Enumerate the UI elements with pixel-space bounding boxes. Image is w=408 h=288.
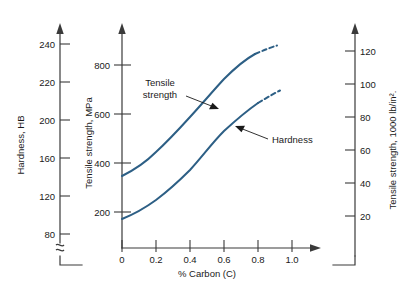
axis-break-icon — [56, 249, 64, 251]
main-ticklabel-400: 400 — [94, 158, 110, 169]
right-ticklabel-60: 60 — [360, 145, 371, 156]
right-axis-tensile-ksi: 120 100 80 60 40 20 Tensile strength, 10… — [333, 23, 398, 265]
main-ticklabel-600: 600 — [94, 109, 110, 120]
hardness-curve — [122, 103, 258, 219]
right-ticklabel-120: 120 — [360, 46, 376, 57]
left-axis-arrowhead — [56, 23, 63, 34]
left-ticklabel-3: 160 — [39, 153, 55, 164]
chart-svg: 240 220 200 160 120 80 Hardness, HB 800 … — [0, 0, 408, 288]
annotation-hardness-leader — [240, 128, 268, 139]
axis-break-icon-2 — [56, 244, 64, 246]
right-ticklabel-100: 100 — [360, 79, 376, 90]
right-axis-label: Tensile strength, 1000 lb/in². — [387, 91, 398, 210]
figure-container: 240 220 200 160 120 80 Hardness, HB 800 … — [0, 0, 408, 288]
tensile-strength-curve-extrapolated — [255, 46, 277, 55]
annotation-tensile-strength: Tensile strength — [143, 77, 219, 109]
left-ticklabel-2: 200 — [39, 115, 55, 126]
main-ticklabel-800: 800 — [94, 60, 110, 71]
xticklabel-1: 0.2 — [149, 254, 162, 265]
left-ticklabel-1: 220 — [39, 77, 55, 88]
left-ticklabel-4: 120 — [39, 191, 55, 202]
main-ticklabel-200: 200 — [94, 207, 110, 218]
main-yaxis-label: Tensile strength, MPa — [83, 97, 94, 189]
right-axis-arrowhead — [351, 23, 358, 34]
tensile-strength-curve — [122, 54, 255, 176]
left-axis-hardness: 240 220 200 160 120 80 Hardness, HB — [15, 23, 82, 265]
annotation-tensile-line2: strength — [143, 89, 177, 100]
xticklabel-0: 0 — [119, 254, 124, 265]
left-ticklabel-0: 240 — [39, 39, 55, 50]
xticklabel-5: 1.0 — [285, 254, 298, 265]
annotation-tensile-line1: Tensile — [145, 77, 175, 88]
right-ticklabel-80: 80 — [360, 112, 371, 123]
hardness-curve-extrapolated — [258, 91, 280, 104]
left-ticklabel-5: 80 — [44, 229, 55, 240]
xticklabel-3: 0.6 — [217, 254, 230, 265]
xaxis-label: % Carbon (C) — [178, 268, 236, 279]
left-axis-label: Hardness, HB — [15, 115, 26, 174]
annotation-hardness-label: Hardness — [272, 134, 313, 145]
right-axis-foot — [333, 256, 355, 265]
xticklabel-4: 0.8 — [251, 254, 264, 265]
main-xaxis-arrowhead — [310, 244, 321, 251]
right-ticklabel-40: 40 — [360, 178, 371, 189]
main-axis-tensile-mpa: 800 600 400 200 Tensile strength, MPa 0 … — [83, 23, 321, 279]
main-yaxis-arrowhead — [118, 23, 125, 34]
left-axis-foot — [60, 256, 82, 265]
annotation-hardness: Hardness — [235, 126, 313, 145]
right-ticklabel-20: 20 — [360, 211, 371, 222]
xticklabel-2: 0.4 — [183, 254, 196, 265]
